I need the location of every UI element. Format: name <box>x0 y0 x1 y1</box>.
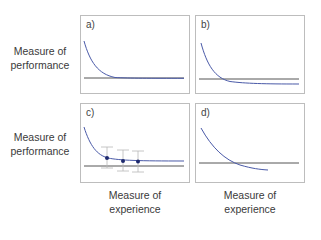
performance-curve <box>84 127 184 161</box>
data-points <box>105 156 140 164</box>
performance-curve <box>84 41 184 78</box>
data-point <box>105 156 109 160</box>
x-axis-label-left: Measure of experience <box>80 188 190 216</box>
performance-curve <box>201 128 268 170</box>
performance-curve <box>201 43 299 84</box>
data-point <box>136 160 140 164</box>
x-axis-label-line1: Measure of <box>195 188 305 202</box>
panel-b-plot <box>199 43 299 84</box>
panel-c-plot <box>84 127 184 172</box>
panel-d-plot <box>199 128 299 170</box>
x-axis-label-line2: experience <box>195 202 305 216</box>
x-axis-label-line2: experience <box>80 202 190 216</box>
x-axis-label-right: Measure of experience <box>195 188 305 216</box>
panel-a-plot <box>84 41 184 78</box>
x-axis-label-line1: Measure of <box>80 188 190 202</box>
data-point <box>121 159 125 163</box>
